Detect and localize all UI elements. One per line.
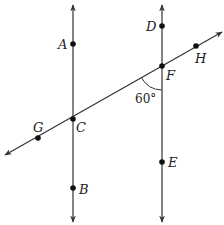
point-f xyxy=(159,63,165,69)
point-g xyxy=(35,135,41,141)
angle-arc xyxy=(141,78,162,90)
point-h xyxy=(193,43,199,49)
point-c xyxy=(70,116,76,122)
point-label-g: G xyxy=(33,120,43,135)
geometry-diagram: ACBDFEHG 60° xyxy=(0,0,224,225)
point-label-f: F xyxy=(165,68,176,83)
points-layer: ACBDFEHG xyxy=(33,19,207,197)
lines-layer xyxy=(5,5,222,222)
point-label-c: C xyxy=(76,120,86,135)
point-b xyxy=(70,185,76,191)
point-d xyxy=(159,23,165,29)
point-a xyxy=(70,41,76,47)
point-label-b: B xyxy=(78,182,89,197)
point-label-a: A xyxy=(57,37,67,52)
point-label-e: E xyxy=(167,155,178,170)
point-e xyxy=(159,159,165,165)
point-label-h: H xyxy=(194,51,207,66)
angle-label: 60° xyxy=(135,92,156,106)
point-label-d: D xyxy=(145,19,157,34)
